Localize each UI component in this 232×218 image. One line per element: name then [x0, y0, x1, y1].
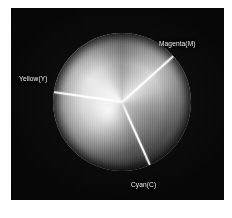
label-yellow: Yellow(Y) [19, 76, 48, 83]
figure-page: Magenta(M) Yellow(Y) Cyan(C) [0, 0, 232, 218]
color-wheel-disc [53, 33, 191, 171]
caption-cutoff-line [14, 208, 220, 214]
caption-cutoff-text [14, 208, 220, 211]
color-wheel-image-panel: Magenta(M) Yellow(Y) Cyan(C) [11, 8, 224, 200]
label-cyan: Cyan(C) [131, 182, 156, 189]
label-magenta: Magenta(M) [159, 41, 196, 48]
